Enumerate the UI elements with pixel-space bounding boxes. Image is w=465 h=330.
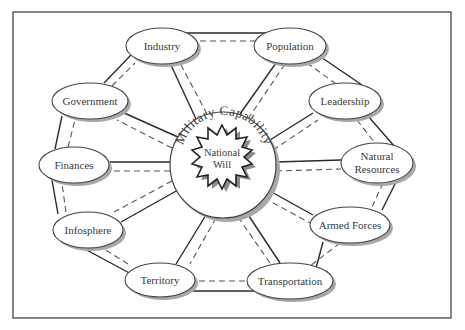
node-label-line1: Natural — [361, 150, 394, 162]
node-label: Population — [266, 40, 314, 52]
node-label: Finances — [54, 159, 93, 171]
node-finances: Finances — [39, 147, 109, 183]
node-label: Territory — [141, 274, 180, 286]
node-label: Infosphere — [64, 224, 111, 236]
node-label: Armed Forces — [319, 219, 382, 231]
node-infosphere: Infosphere — [53, 212, 123, 248]
node-territory: Territory — [125, 263, 195, 297]
node-transportation: Transportation — [247, 263, 333, 299]
inner-label-line2: Will — [213, 159, 231, 170]
node-population: Population — [254, 28, 326, 64]
node-label: Leadership — [321, 95, 370, 107]
node-armed-forces: Armed Forces — [310, 207, 390, 243]
node-label: Government — [63, 95, 118, 107]
node-natural-resources: Natural Resources — [341, 143, 413, 183]
node-industry: Industry — [126, 28, 198, 64]
node-government: Government — [52, 83, 128, 119]
node-label: Transportation — [258, 275, 323, 287]
node-leadership: Leadership — [309, 83, 381, 119]
inner-label-line1: National — [204, 147, 240, 158]
military-capability-diagram: Industry Population Leadership Natural R… — [0, 0, 465, 330]
node-label: Industry — [144, 40, 181, 52]
node-label-line2: Resources — [354, 163, 399, 175]
